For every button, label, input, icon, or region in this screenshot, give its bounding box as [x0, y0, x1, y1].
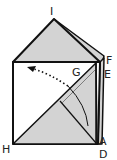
- label-H: H: [2, 143, 10, 156]
- label-G: G: [72, 66, 81, 79]
- label-E: E: [104, 68, 111, 81]
- label-F: F: [106, 54, 112, 67]
- label-A: A: [99, 135, 107, 148]
- origami-diagram: I F E G H A D: [0, 0, 117, 160]
- roof-triangle: [13, 19, 100, 62]
- label-D: D: [99, 148, 107, 160]
- label-I: I: [50, 5, 53, 18]
